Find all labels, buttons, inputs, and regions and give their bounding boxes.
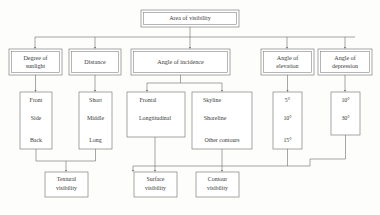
node-label-line2: depression: [332, 63, 358, 69]
node-label-line1: Degree of: [23, 55, 48, 61]
node-label-line1: Contour: [208, 176, 227, 182]
list-item: 15°: [283, 137, 292, 143]
node-label-line2: visibility: [207, 185, 228, 191]
list-item: Skyline: [203, 97, 221, 103]
node-elevation-values[interactable]: 5° 10° 15°: [273, 92, 302, 149]
diagram-page: Area of visibility Degree of sunlight Di…: [0, 0, 380, 215]
node-angle-of-elevation[interactable]: Angle of elevation: [261, 49, 314, 75]
node-textural-visibility[interactable]: Textural visibility: [45, 172, 88, 197]
node-angle-of-incidence[interactable]: Angle of incidence: [131, 49, 230, 75]
node-label-line1: Distance: [84, 59, 106, 65]
node-label-line2: visibility: [56, 185, 77, 191]
list-item: 30°: [341, 115, 350, 121]
list-item: Frontal: [139, 97, 156, 103]
list-item: Middle: [87, 115, 104, 121]
list-item: Front: [30, 97, 43, 103]
node-degree-of-sunlight[interactable]: Degree of sunlight: [9, 49, 62, 75]
list-item: Other contours: [204, 137, 240, 143]
node-label: Area of visibility: [169, 15, 212, 21]
connector-incidence-split: [147, 75, 222, 91]
list-item: Shoreline: [204, 115, 227, 121]
node-label-line1: Surface: [147, 176, 165, 182]
node-label-line2: visibility: [145, 185, 166, 191]
node-label-line2: sunlight: [26, 63, 46, 69]
connector-root-to-bus: [35, 27, 355, 48]
node-skyline-values[interactable]: Skyline Shoreline Other contours: [192, 92, 252, 149]
list-item: Side: [31, 115, 42, 121]
node-frontal-values[interactable]: Frontal Longtitudinal: [127, 92, 185, 137]
list-item: Short: [89, 97, 102, 103]
node-surface-visibility[interactable]: Surface visibility: [134, 172, 177, 197]
node-distance-values[interactable]: Short Middle Long: [79, 92, 112, 149]
visibility-hierarchy-diagram: Area of visibility Degree of sunlight Di…: [0, 0, 380, 215]
list-item: Longtitudinal: [139, 115, 171, 121]
node-area-of-visibility[interactable]: Area of visibility: [141, 10, 239, 27]
node-label-line2: elevation: [276, 63, 298, 69]
node-angle-of-depression[interactable]: Angle of depression: [318, 49, 372, 75]
node-label-line1: Angle of: [277, 55, 299, 61]
list-item: 10°: [341, 97, 350, 103]
list-item: 10°: [283, 115, 292, 121]
list-item: Back: [30, 137, 42, 143]
node-distance[interactable]: Distance: [69, 49, 121, 75]
node-sunlight-values[interactable]: Front Side Back: [20, 92, 52, 149]
connector-textural: [36, 149, 96, 171]
node-depression-values[interactable]: 10° 30°: [331, 92, 360, 135]
node-contour-visibility[interactable]: Contour visibility: [196, 172, 239, 197]
node-label-line1: Angle of: [334, 55, 356, 61]
node-label-line1: Textural: [57, 176, 77, 182]
node-label-line1: Angle of incidence: [157, 59, 204, 65]
list-item: Long: [89, 137, 101, 143]
list-item: 5°: [285, 97, 291, 103]
